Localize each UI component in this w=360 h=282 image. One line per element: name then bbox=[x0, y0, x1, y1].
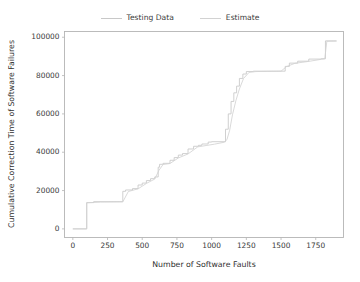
x-axis-tick-labels: 02505007501000125015001750 bbox=[70, 241, 325, 250]
y-tick-label: 0 bbox=[55, 224, 60, 233]
chart-figure: Testing Data Estimate 020000400006000080… bbox=[0, 0, 360, 282]
y-axis-title: Cumulative Correction Time of Software F… bbox=[7, 40, 16, 228]
series-line-testing-data bbox=[73, 41, 337, 229]
x-tick-label: 1750 bbox=[306, 241, 325, 250]
y-tick-label: 20000 bbox=[36, 186, 60, 195]
y-tick-label: 100000 bbox=[31, 32, 60, 41]
y-tick-label: 80000 bbox=[36, 71, 60, 80]
series-line-estimate bbox=[73, 41, 337, 229]
x-tick-label: 1500 bbox=[272, 241, 291, 250]
axis-tick-marks bbox=[62, 37, 316, 240]
x-tick-label: 1250 bbox=[237, 241, 256, 250]
x-axis-title: Number of Software Faults bbox=[152, 260, 255, 269]
x-tick-label: 750 bbox=[170, 241, 184, 250]
y-tick-label: 40000 bbox=[36, 147, 60, 156]
x-tick-label: 1000 bbox=[202, 241, 221, 250]
data-series-group bbox=[73, 41, 337, 229]
plot-canvas: 020000400006000080000100000 025050075010… bbox=[0, 0, 360, 282]
x-tick-label: 250 bbox=[100, 241, 114, 250]
y-axis-tick-labels: 020000400006000080000100000 bbox=[31, 32, 60, 233]
x-tick-label: 0 bbox=[70, 241, 75, 250]
x-tick-label: 500 bbox=[135, 241, 149, 250]
y-tick-label: 60000 bbox=[36, 109, 60, 118]
